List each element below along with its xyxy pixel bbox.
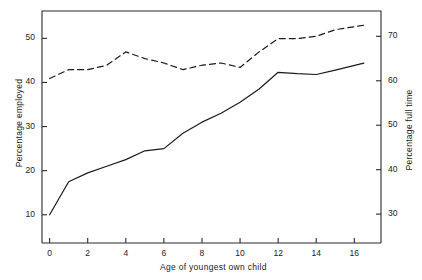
x-tick-label: 14 bbox=[312, 248, 321, 258]
x-tick-label: 16 bbox=[350, 248, 359, 258]
y-tick-label-left: 50 bbox=[26, 32, 35, 42]
y-tick-label-left: 20 bbox=[26, 165, 35, 175]
y-tick-label-right: 50 bbox=[388, 119, 397, 129]
x-tick-label: 0 bbox=[47, 248, 52, 258]
y-tick-label-right: 40 bbox=[388, 164, 397, 174]
x-axis-label: Age of youngest own child bbox=[160, 262, 267, 272]
y-tick-label-right: 60 bbox=[388, 75, 397, 85]
x-tick-label: 8 bbox=[200, 248, 205, 258]
y-tick-label-right: 70 bbox=[388, 30, 397, 40]
y-axis-label-left: Percentage employed bbox=[14, 63, 24, 183]
x-tick-label: 6 bbox=[162, 248, 167, 258]
x-tick-label: 2 bbox=[85, 248, 90, 258]
figure-chart: Percentage employed Percentage full time… bbox=[0, 0, 422, 280]
plot-canvas bbox=[0, 0, 422, 280]
x-tick-label: 12 bbox=[273, 248, 282, 258]
plot-frame bbox=[42, 11, 381, 243]
x-tick-label: 4 bbox=[123, 248, 128, 258]
y-axis-label-right: Percentage full time bbox=[404, 70, 414, 190]
y-tick-label-right: 30 bbox=[388, 208, 397, 218]
y-tick-label-left: 40 bbox=[26, 76, 35, 86]
y-tick-label-left: 30 bbox=[26, 121, 35, 131]
y-tick-label-left: 10 bbox=[26, 209, 35, 219]
x-tick-label: 10 bbox=[235, 248, 244, 258]
series-line-1 bbox=[50, 25, 364, 78]
series-line-0 bbox=[50, 63, 364, 215]
